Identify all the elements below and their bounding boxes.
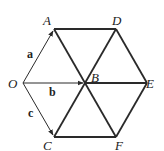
label-D: D <box>111 13 122 28</box>
segment-DB <box>85 29 116 83</box>
label-B: B <box>91 70 99 85</box>
label-C: C <box>43 138 52 151</box>
segment-DE <box>116 29 147 83</box>
label-E: E <box>145 76 154 91</box>
vector-a-label: a <box>27 47 33 61</box>
label-A: A <box>42 13 51 28</box>
segment-BF <box>85 83 116 137</box>
vector-b-label: b <box>49 85 56 99</box>
segment-EF <box>116 83 147 137</box>
hexagon-vector-diagram: O A D B E C F a b c <box>0 0 164 151</box>
segment-AB <box>54 29 85 83</box>
segment-BC <box>54 83 85 137</box>
vector-c-label: c <box>28 106 34 120</box>
label-F: F <box>114 138 124 151</box>
label-O: O <box>8 76 18 91</box>
